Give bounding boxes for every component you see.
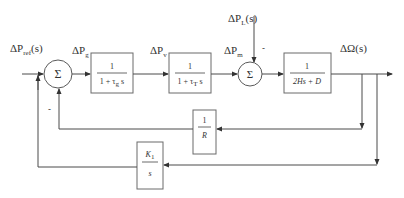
summing-junction-2: Σ bbox=[238, 62, 262, 86]
svg-text:1: 1 bbox=[110, 62, 114, 71]
load-minus-sign: - bbox=[262, 43, 265, 53]
signal-label-governor-output: ΔPg bbox=[72, 44, 89, 59]
signal-label-output: ΔΩ(s) bbox=[340, 42, 367, 55]
turbine-block: 1 1 + τT s bbox=[169, 53, 211, 93]
svg-text:Σ: Σ bbox=[247, 68, 253, 80]
block-diagram: ΔPref(s) Σ ΔPg 1 1 + τg s ΔPv 1 1 + τT s bbox=[0, 0, 404, 198]
svg-text:1: 1 bbox=[305, 62, 309, 71]
droop-block: 1 R bbox=[193, 110, 216, 154]
inertia-block: 1 2Hs + D bbox=[284, 53, 331, 93]
svg-text:Σ: Σ bbox=[55, 67, 62, 81]
signal-label-reference: ΔPref(s) bbox=[10, 42, 43, 57]
svg-text:s: s bbox=[148, 169, 151, 178]
summing-junction-1: Σ bbox=[44, 60, 72, 88]
svg-text:2Hs + D: 2Hs + D bbox=[293, 77, 321, 86]
svg-text:1: 1 bbox=[188, 62, 192, 71]
integral-block: K1 s bbox=[137, 142, 163, 189]
feedback-minus-sign: - bbox=[48, 104, 51, 114]
svg-text:1: 1 bbox=[203, 116, 207, 125]
svg-text:R: R bbox=[201, 131, 207, 140]
governor-block: 1 1 + τg s bbox=[91, 53, 133, 93]
signal-label-valve: ΔPv bbox=[150, 44, 167, 59]
droop-feedback-line-left bbox=[59, 89, 193, 129]
signal-label-mechanical: ΔPm bbox=[224, 44, 243, 59]
signal-label-load: ΔPL(s) bbox=[228, 12, 257, 27]
